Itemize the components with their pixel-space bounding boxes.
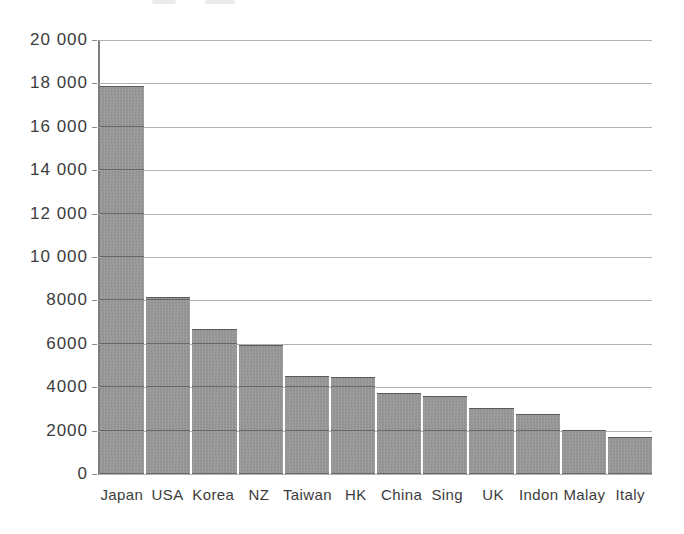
bar-slot-italy [608, 40, 652, 474]
bar-indon [516, 414, 560, 474]
x-axis-label-usa: USA [146, 486, 190, 503]
y-axis-tick-label: 8000 [0, 291, 88, 309]
y-axis-tick-label: 6000 [0, 335, 88, 353]
bar-slot-china [377, 40, 421, 474]
x-axis-label-indon: Indon [517, 486, 561, 503]
cropped-text-artifact [205, 0, 235, 4]
bar-sing [423, 396, 467, 474]
cropped-text-artifact [152, 0, 176, 4]
y-axis-tick [92, 474, 97, 475]
bar-slot-taiwan [285, 40, 329, 474]
bar-chart-figure: 20 00018 00016 00014 00012 00010 0008000… [0, 0, 684, 534]
y-axis-tick [92, 257, 97, 258]
x-axis-label-china: China [380, 486, 424, 503]
bar-italy [608, 437, 652, 474]
bar-slot-sing [423, 40, 467, 474]
bar-china [377, 393, 421, 474]
y-axis-tick-label: 10 000 [0, 248, 88, 266]
bar-slot-nz [239, 40, 283, 474]
x-axis-label-sing: Sing [425, 486, 469, 503]
bar-nz [239, 345, 283, 474]
x-axis-label-malay: Malay [563, 486, 607, 503]
gridline [99, 474, 652, 475]
bar-slot-korea [192, 40, 236, 474]
y-axis-tick-label: 20 000 [0, 31, 88, 49]
y-axis-tick [92, 170, 97, 171]
bar-slot-usa [146, 40, 190, 474]
y-axis-tick-label: 0 [0, 465, 88, 483]
y-axis-tick [92, 431, 97, 432]
y-axis-tick [92, 214, 97, 215]
y-axis-tick-label: 18 000 [0, 74, 88, 92]
x-axis-labels: JapanUSAKoreaNZTaiwanHKChinaSingUKIndonM… [100, 486, 652, 503]
x-axis-label-hk: HK [334, 486, 378, 503]
y-axis-tick [92, 300, 97, 301]
bar-uk [469, 408, 513, 474]
bar-slot-uk [469, 40, 513, 474]
bar-hk [331, 377, 375, 474]
x-axis-label-uk: UK [471, 486, 515, 503]
bar-korea [192, 329, 236, 474]
y-axis-tick [92, 127, 97, 128]
bar-series [100, 40, 652, 474]
bar-japan [100, 86, 144, 474]
x-axis-label-korea: Korea [191, 486, 235, 503]
x-axis-label-taiwan: Taiwan [283, 486, 332, 503]
bar-usa [146, 297, 190, 474]
y-axis-tick [92, 83, 97, 84]
y-axis-tick-label: 16 000 [0, 118, 88, 136]
y-axis-tick-label: 4000 [0, 378, 88, 396]
bar-slot-malay [562, 40, 606, 474]
bar-slot-japan [100, 40, 144, 474]
bar-taiwan [285, 376, 329, 474]
y-axis-tick-label: 14 000 [0, 161, 88, 179]
y-axis-tick [92, 344, 97, 345]
bar-slot-hk [331, 40, 375, 474]
x-axis-label-japan: Japan [100, 486, 144, 503]
y-axis-tick [92, 387, 97, 388]
x-axis-label-italy: Italy [608, 486, 652, 503]
y-axis-tick [92, 40, 97, 41]
bar-slot-indon [516, 40, 560, 474]
y-axis-tick-label: 12 000 [0, 205, 88, 223]
x-axis-label-nz: NZ [237, 486, 281, 503]
bar-malay [562, 430, 606, 474]
y-axis-tick-label: 2000 [0, 422, 88, 440]
